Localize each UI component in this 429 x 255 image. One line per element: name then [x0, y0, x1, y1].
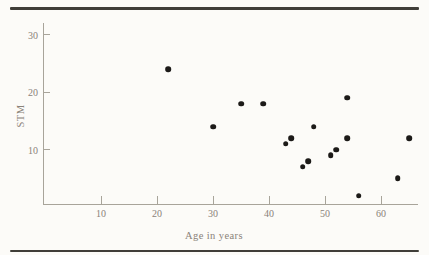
data-point	[238, 101, 244, 107]
data-point	[406, 135, 412, 141]
figure-page: 102030405060102030 STM Age in years	[0, 0, 429, 255]
scatter-plot: 102030405060102030 STM Age in years	[0, 0, 429, 255]
data-point	[289, 135, 295, 141]
data-point	[311, 124, 317, 130]
x-tick-label: 50	[313, 208, 337, 219]
data-point	[345, 135, 351, 141]
x-tick	[157, 196, 158, 204]
data-point	[333, 147, 339, 153]
x-tick	[381, 196, 382, 204]
x-tick	[101, 196, 102, 204]
x-axis-title: Age in years	[185, 230, 243, 241]
y-tick	[43, 92, 50, 93]
data-point	[305, 158, 311, 164]
x-tick	[213, 196, 214, 204]
data-point	[210, 124, 216, 130]
data-point	[283, 141, 289, 147]
y-tick	[43, 149, 50, 150]
data-point	[328, 152, 334, 158]
y-tick	[43, 34, 50, 35]
y-tick-label: 30	[12, 30, 38, 41]
y-axis-line	[43, 23, 44, 205]
y-tick-label: 20	[12, 87, 38, 98]
data-point	[345, 95, 351, 101]
x-axis-line	[43, 204, 418, 205]
x-tick	[269, 196, 270, 204]
data-point	[395, 175, 401, 181]
data-point	[300, 164, 306, 170]
x-tick-label: 20	[145, 208, 169, 219]
bottom-rule	[10, 250, 419, 252]
y-tick-label: 10	[12, 145, 38, 156]
x-tick-label: 40	[257, 208, 281, 219]
x-tick-label: 30	[201, 208, 225, 219]
data-point	[165, 66, 171, 72]
data-point	[356, 193, 362, 199]
y-axis-title: STM	[15, 105, 26, 128]
data-point	[261, 101, 267, 107]
x-tick-label: 10	[89, 208, 113, 219]
x-tick-label: 60	[369, 208, 393, 219]
x-tick	[325, 196, 326, 204]
